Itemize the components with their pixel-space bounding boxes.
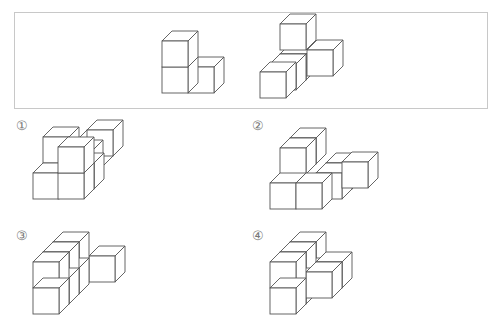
cube-drawings xyxy=(0,0,502,334)
given-piece-a xyxy=(162,31,224,93)
option-3-figure[interactable] xyxy=(33,232,125,314)
given-piece-b xyxy=(260,14,343,98)
option-4-figure[interactable] xyxy=(270,232,352,314)
option-2-figure[interactable] xyxy=(270,128,378,209)
option-1-figure[interactable] xyxy=(33,120,123,199)
